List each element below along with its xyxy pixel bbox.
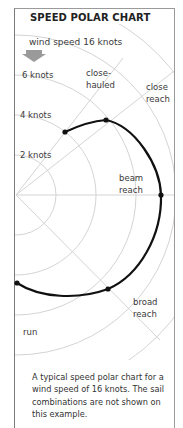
label-close-reach-2: reach	[146, 93, 170, 105]
wind-speed-label: wind speed 16 knots	[29, 36, 122, 48]
label-run: run	[23, 326, 37, 338]
label-beam-reach-1: beam	[119, 172, 143, 184]
point-close-reach	[103, 117, 108, 122]
label-broad-reach-1: broad	[133, 296, 158, 308]
point-broad-reach	[105, 286, 110, 291]
ring-label-6-knots: 6 knots	[22, 69, 53, 81]
point-run	[14, 280, 19, 285]
label-close-reach-1: close	[146, 81, 168, 93]
ring-label-4-knots: 4 knots	[20, 109, 51, 121]
label-close-hauled-1: close-	[86, 67, 111, 79]
chart-caption: A typical speed polar chart for a wind s…	[32, 371, 172, 420]
point-close-hauled	[62, 129, 67, 134]
wind-arrow-icon	[22, 50, 46, 62]
speed-curve	[17, 120, 161, 296]
label-broad-reach-2: reach	[133, 308, 157, 320]
ring-label-2-knots: 2 knots	[20, 149, 51, 161]
label-beam-reach-2: reach	[119, 184, 143, 196]
point-beam-reach	[158, 192, 163, 197]
label-close-hauled-2: hauled	[86, 79, 115, 91]
